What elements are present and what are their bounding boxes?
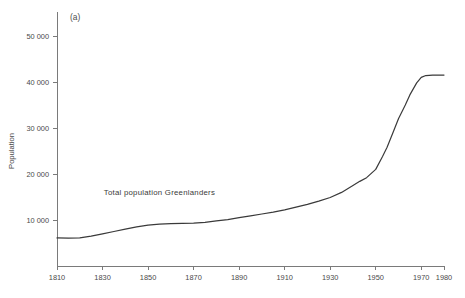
panel-label: (a) xyxy=(70,12,80,22)
y-axis-tick-label: 20 000 xyxy=(26,170,49,179)
y-axis: 10 00020 00030 00040 00050 000 xyxy=(26,12,57,266)
x-axis-tick-label: 1870 xyxy=(185,273,201,282)
x-axis-tick-label: 1810 xyxy=(49,273,65,282)
data-series-group xyxy=(57,75,444,238)
x-axis-tick-label: 1930 xyxy=(322,273,338,282)
data-series-line xyxy=(57,75,444,238)
x-axis-tick-label: 1910 xyxy=(276,273,292,282)
x-axis: 1810183018501870189019101930195019701980 xyxy=(49,266,452,282)
chart-plot-area: 10 00020 00030 00040 00050 000 181018301… xyxy=(0,0,465,298)
population-chart-figure: 10 00020 00030 00040 00050 000 181018301… xyxy=(0,0,465,298)
x-axis-tick-label: 1850 xyxy=(140,273,156,282)
y-axis-tick-label: 40 000 xyxy=(26,78,49,87)
series-annotation-label: Total population Greenlanders xyxy=(104,188,215,197)
y-axis-tick-label: 10 000 xyxy=(26,216,49,225)
x-axis-tick-label: 1830 xyxy=(94,273,110,282)
x-axis-tick-label: 1980 xyxy=(436,273,452,282)
y-axis-tick-label: 50 000 xyxy=(26,32,49,41)
chart-annotations: Total population Greenlanders xyxy=(104,188,215,197)
x-axis-tick-label: 1950 xyxy=(367,273,383,282)
y-axis-tick-label: 30 000 xyxy=(26,124,49,133)
x-axis-tick-label: 1970 xyxy=(413,273,429,282)
x-axis-tick-label: 1890 xyxy=(231,273,247,282)
y-axis-title: Population xyxy=(7,133,16,169)
